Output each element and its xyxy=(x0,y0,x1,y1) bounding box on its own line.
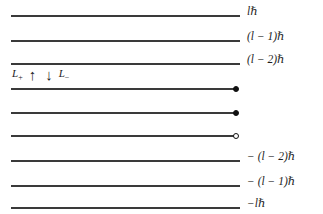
level-dot-hollow-icon xyxy=(233,133,239,139)
energy-level-row: −lℏ xyxy=(0,207,323,208)
up-arrow-icon: ↑ xyxy=(26,68,40,83)
energy-level-line xyxy=(11,185,240,187)
energy-level-row: lℏ xyxy=(0,15,323,16)
ladder-operator-annotation: L+ ↑ ↓ L− xyxy=(12,64,69,86)
level-dot-filled-icon xyxy=(233,110,239,116)
energy-level-line xyxy=(11,88,234,90)
energy-level-line xyxy=(11,207,240,209)
energy-level-row: − (l − 1)ℏ xyxy=(0,185,323,186)
down-arrow-icon: ↓ xyxy=(42,68,56,83)
energy-level-line xyxy=(11,40,240,42)
energy-level-row: − (l − 2)ℏ xyxy=(0,160,323,161)
energy-level-label: lℏ xyxy=(247,6,258,18)
energy-level-label: (l − 2)ℏ xyxy=(247,54,285,66)
energy-level-row xyxy=(0,135,323,136)
energy-level-row: (l − 1)ℏ xyxy=(0,40,323,41)
energy-level-row xyxy=(0,88,323,89)
energy-level-line xyxy=(11,160,240,162)
level-dot-filled-icon xyxy=(233,86,239,92)
energy-level-line xyxy=(11,15,240,17)
energy-level-line xyxy=(11,135,234,137)
energy-level-line xyxy=(11,112,234,114)
lowering-operator-label: L− xyxy=(59,68,70,82)
raising-operator-label: L+ xyxy=(12,68,23,82)
energy-level-label: (l − 1)ℏ xyxy=(247,31,285,43)
angular-momentum-level-diagram: lℏ(l − 1)ℏ(l − 2)ℏ− (l − 2)ℏ− (l − 1)ℏ−l… xyxy=(0,0,323,214)
energy-level-label: − (l − 1)ℏ xyxy=(247,176,295,188)
energy-level-row xyxy=(0,112,323,113)
energy-level-label: − (l − 2)ℏ xyxy=(247,151,295,163)
energy-level-label: −lℏ xyxy=(247,198,265,210)
